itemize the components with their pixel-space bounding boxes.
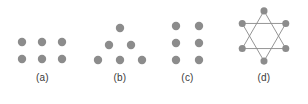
dot — [18, 55, 26, 63]
dot — [138, 56, 146, 64]
dot — [172, 39, 180, 47]
dot — [18, 38, 26, 46]
panel-a-label: (a) — [0, 71, 85, 84]
upward-triangle — [242, 11, 286, 49]
downward-triangle — [242, 23, 286, 61]
dot — [94, 56, 102, 64]
dot — [282, 45, 289, 52]
dot — [282, 20, 289, 27]
dot — [195, 56, 203, 64]
panel-a: (a) — [0, 0, 85, 104]
dot — [58, 38, 66, 46]
dot — [239, 45, 246, 52]
panel-b-dots — [85, 0, 155, 72]
dot — [260, 7, 267, 14]
panel-c-dots — [155, 0, 220, 72]
dot — [116, 24, 124, 32]
dot — [38, 38, 46, 46]
dot — [127, 41, 135, 49]
dot-arrangement-figure: (a) (b) (c) (d) — [0, 0, 308, 104]
dot — [172, 56, 180, 64]
panel-c-label: (c) — [155, 71, 220, 84]
dot — [172, 22, 180, 30]
panel-b-label: (b) — [85, 71, 155, 84]
panel-d: (d) — [220, 0, 308, 104]
panel-d-star — [220, 0, 308, 72]
dot — [58, 55, 66, 63]
dot — [38, 55, 46, 63]
panel-d-label: (d) — [220, 71, 308, 84]
panel-a-dots — [0, 0, 85, 72]
dot — [195, 22, 203, 30]
dot — [116, 56, 124, 64]
dot — [239, 20, 246, 27]
dot — [105, 41, 113, 49]
panel-c: (c) — [155, 0, 220, 104]
panel-b: (b) — [85, 0, 155, 104]
dot — [260, 58, 267, 65]
dot — [195, 39, 203, 47]
